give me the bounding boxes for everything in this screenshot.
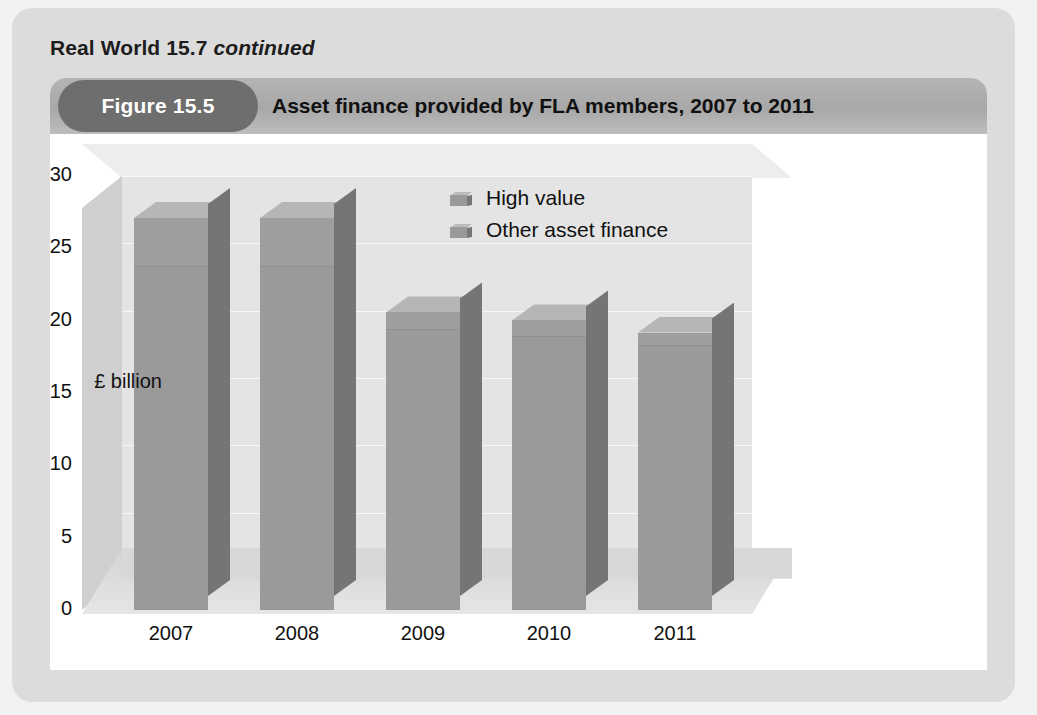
plot-ceiling-edge: [82, 144, 792, 178]
real-world-heading-continued: continued: [213, 36, 314, 59]
bar-front-face: [386, 312, 460, 610]
bar-2010: [512, 304, 608, 610]
real-world-heading: Real World 15.7 continued: [50, 36, 315, 60]
y-tick-label: 20: [26, 308, 72, 331]
bar-front-face: [260, 218, 334, 610]
legend-swatch-icon: [450, 224, 472, 238]
legend-label: Other asset finance: [486, 218, 668, 242]
bar-front-face: [134, 218, 208, 610]
legend-swatch-icon: [450, 192, 472, 206]
bar-segment-high-value: [260, 218, 334, 266]
x-tick-label: 2008: [242, 622, 352, 645]
plot-left-wall: [82, 176, 122, 610]
legend-label: High value: [486, 186, 585, 210]
figure-number-label: Figure 15.5: [101, 94, 214, 118]
bar-side-face: [334, 188, 356, 596]
legend-item: Other asset finance: [450, 214, 668, 246]
bar-2011: [638, 317, 734, 610]
bar-segment-high-value: [512, 320, 586, 336]
bar-front-face: [512, 320, 586, 610]
real-world-heading-main: Real World 15.7: [50, 36, 208, 59]
y-tick-label: 10: [26, 452, 72, 475]
figure-header-bar: Figure 15.5 Asset finance provided by FL…: [50, 78, 987, 134]
legend-item: High value: [450, 182, 668, 214]
bar-front-face: [638, 333, 712, 610]
chart-legend: High valueOther asset finance: [450, 182, 668, 246]
bar-2008: [260, 202, 356, 610]
bar-side-face: [586, 290, 608, 596]
y-tick-label: 30: [26, 163, 72, 186]
x-tick-label: 2011: [620, 622, 730, 645]
bar-side-face: [208, 188, 230, 596]
x-tick-label: 2010: [494, 622, 604, 645]
x-tick-label: 2007: [116, 622, 226, 645]
y-tick-label: 25: [26, 235, 72, 258]
y-tick-label: 0: [26, 597, 72, 620]
gridline: [122, 176, 752, 177]
y-axis-label: £ billion: [12, 370, 162, 393]
figure-title: Asset finance provided by FLA members, 2…: [272, 78, 814, 134]
bar-2009: [386, 296, 482, 610]
bar-segment-high-value: [386, 312, 460, 330]
x-tick-label: 2009: [368, 622, 478, 645]
figure-number-pill: Figure 15.5: [58, 80, 258, 132]
bar-side-face: [712, 303, 734, 596]
figure-card: Figure 15.5 Asset finance provided by FL…: [50, 78, 987, 670]
real-world-panel: Real World 15.7 continued Figure 15.5 As…: [12, 8, 1015, 702]
bar-side-face: [460, 282, 482, 596]
y-tick-label: 5: [26, 525, 72, 548]
bar-segment-high-value: [638, 333, 712, 346]
bar-segment-high-value: [134, 218, 208, 266]
chart-plot: 051015202530 £ billion 20072008200920102…: [50, 134, 987, 670]
bar-2007: [134, 202, 230, 610]
scanned-page: Real World 15.7 continued Figure 15.5 As…: [0, 0, 1037, 715]
